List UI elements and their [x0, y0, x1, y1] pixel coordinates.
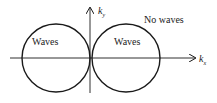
wave-region-diagram: Waves Waves No waves ky kx: [0, 0, 217, 103]
ky-axis-label: ky: [98, 5, 105, 18]
outside-region-label: No waves: [144, 14, 184, 25]
kx-axis-label: kx: [199, 53, 206, 66]
right-region-label: Waves: [114, 36, 141, 47]
left-region-label: Waves: [32, 36, 59, 47]
diagram-canvas: Waves Waves No waves ky kx: [0, 0, 217, 103]
